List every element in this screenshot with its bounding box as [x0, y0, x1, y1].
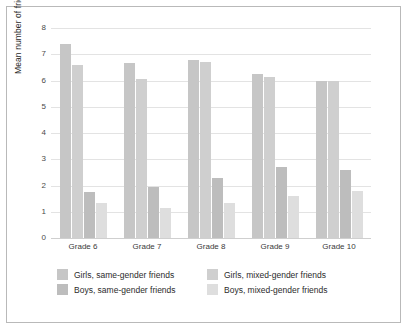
- bar: [60, 44, 71, 238]
- bar: [96, 203, 107, 238]
- bar: [224, 203, 235, 238]
- chart-figure: Mean number of friends 012345678 Grade 6…: [0, 0, 407, 329]
- legend-item: Boys, same-gender friends: [57, 284, 207, 295]
- legend-item: Boys, mixed-gender friends: [207, 284, 357, 295]
- bar: [72, 65, 83, 238]
- x-tick-label: Grade 9: [240, 242, 310, 251]
- bar-group: [124, 28, 171, 238]
- legend-label: Boys, mixed-gender friends: [224, 285, 327, 295]
- bar: [276, 167, 287, 238]
- y-tick-label: 1: [30, 208, 46, 216]
- bar: [252, 74, 263, 238]
- x-tick-label: Grade 10: [304, 242, 374, 251]
- bars-container: [51, 28, 371, 238]
- bar: [212, 178, 223, 238]
- y-tick-label: 8: [30, 24, 46, 32]
- bar-group: [316, 28, 363, 238]
- legend-row: Girls, same-gender friendsGirls, mixed-g…: [57, 267, 357, 282]
- legend-label: Girls, mixed-gender friends: [224, 270, 326, 280]
- y-axis-label: Mean number of friends: [13, 0, 23, 88]
- bar: [188, 60, 199, 239]
- x-axis-line: [51, 238, 371, 239]
- bar: [340, 170, 351, 238]
- plot-area-wrapper: Mean number of friends 012345678 Grade 6…: [0, 0, 407, 329]
- bar-group: [188, 28, 235, 238]
- y-tick-label: 5: [30, 103, 46, 111]
- bar-group: [252, 28, 299, 238]
- x-tick-label: Grade 7: [112, 242, 182, 251]
- bar: [148, 187, 159, 238]
- legend-label: Boys, same-gender friends: [74, 285, 176, 295]
- legend-item: Girls, same-gender friends: [57, 269, 207, 280]
- legend-swatch: [207, 269, 218, 280]
- legend-row: Boys, same-gender friendsBoys, mixed-gen…: [57, 282, 357, 297]
- chart-legend: Girls, same-gender friendsGirls, mixed-g…: [57, 267, 357, 297]
- y-tick-label: 3: [30, 155, 46, 163]
- legend-label: Girls, same-gender friends: [74, 270, 174, 280]
- legend-swatch: [207, 284, 218, 295]
- y-tick-label: 6: [30, 77, 46, 85]
- bar: [288, 196, 299, 238]
- legend-item: Girls, mixed-gender friends: [207, 269, 357, 280]
- y-tick-label: 2: [30, 182, 46, 190]
- bar-group: [60, 28, 107, 238]
- legend-swatch: [57, 269, 68, 280]
- bar: [328, 81, 339, 239]
- bar: [352, 191, 363, 238]
- bar: [124, 63, 135, 238]
- bar: [160, 208, 171, 238]
- y-tick-label: 4: [30, 129, 46, 137]
- bar: [200, 62, 211, 238]
- x-tick-label: Grade 8: [176, 242, 246, 251]
- bar: [84, 192, 95, 238]
- bar: [264, 77, 275, 238]
- legend-swatch: [57, 284, 68, 295]
- y-tick-label: 0: [30, 234, 46, 242]
- y-tick-label: 7: [30, 50, 46, 58]
- x-tick-label: Grade 6: [48, 242, 118, 251]
- bar: [316, 81, 327, 239]
- bar: [136, 79, 147, 238]
